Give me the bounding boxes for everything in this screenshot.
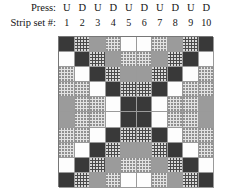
press-label: Press: — [0, 0, 59, 15]
pattern-cell — [183, 158, 199, 173]
pattern-cell — [90, 143, 106, 158]
strip-set-number: 3 — [90, 15, 106, 30]
pattern-cell — [183, 37, 199, 52]
pattern-cell — [183, 173, 199, 188]
pattern-cell — [59, 128, 75, 143]
pattern-cell — [106, 67, 122, 82]
pattern-cell — [59, 37, 75, 52]
pattern-cell — [59, 158, 75, 173]
pattern-cell — [106, 37, 122, 52]
pattern-cell — [199, 52, 215, 67]
pattern-cell — [168, 67, 184, 82]
pattern-cell — [75, 67, 91, 82]
quilt-pattern-grid — [58, 36, 213, 187]
strip-set-number: 5 — [121, 15, 137, 30]
pattern-cell — [90, 67, 106, 82]
strip-set-number: 2 — [75, 15, 91, 30]
pattern-cell — [199, 97, 215, 112]
pattern-cell — [152, 67, 168, 82]
pattern-cell — [121, 97, 137, 112]
pattern-cell — [168, 143, 184, 158]
pattern-cell — [137, 67, 153, 82]
press-value: U — [59, 0, 75, 15]
strip-set-number: 6 — [137, 15, 153, 30]
pattern-cell — [121, 158, 137, 173]
pattern-cell — [59, 52, 75, 67]
pattern-cell — [75, 143, 91, 158]
pattern-cell — [75, 173, 91, 188]
chart-header: Press: U D U D U D U D U D Strip set #: … — [0, 0, 226, 30]
strip-pattern-figure: Press: U D U D U D U D U D Strip set #: … — [0, 0, 226, 195]
press-value: U — [152, 0, 168, 15]
pattern-cell — [75, 158, 91, 173]
press-row: Press: U D U D U D U D U D — [0, 0, 226, 15]
pattern-cell — [137, 128, 153, 143]
pattern-cell — [183, 128, 199, 143]
pattern-cell — [90, 158, 106, 173]
pattern-cell — [90, 97, 106, 112]
pattern-cell — [90, 112, 106, 127]
pattern-cell — [183, 52, 199, 67]
pattern-cell — [59, 173, 75, 188]
pattern-cell — [152, 128, 168, 143]
pattern-cell — [137, 173, 153, 188]
pattern-cell — [199, 112, 215, 127]
strip-set-number: 8 — [168, 15, 184, 30]
pattern-cell — [183, 97, 199, 112]
pattern-cell — [199, 158, 215, 173]
pattern-cell — [121, 82, 137, 97]
pattern-cell — [199, 37, 215, 52]
pattern-cell — [106, 97, 122, 112]
pattern-cell — [90, 173, 106, 188]
pattern-cell — [121, 128, 137, 143]
pattern-cell — [183, 67, 199, 82]
strip-set-number: 7 — [152, 15, 168, 30]
pattern-cell — [183, 82, 199, 97]
pattern-cell — [152, 52, 168, 67]
pattern-cell — [137, 82, 153, 97]
pattern-cell — [90, 128, 106, 143]
pattern-cell — [59, 82, 75, 97]
pattern-cell — [75, 112, 91, 127]
pattern-cell — [199, 173, 215, 188]
pattern-cell — [152, 143, 168, 158]
pattern-cell — [106, 82, 122, 97]
press-value: D — [75, 0, 91, 15]
pattern-cell — [90, 82, 106, 97]
press-value: U — [183, 0, 199, 15]
strip-set-number: 4 — [106, 15, 122, 30]
pattern-cell — [168, 37, 184, 52]
strip-set-number: 1 — [59, 15, 75, 30]
pattern-cell — [121, 52, 137, 67]
pattern-cell — [199, 82, 215, 97]
press-value: D — [106, 0, 122, 15]
pattern-cell — [90, 37, 106, 52]
strip-set-number: 10 — [199, 15, 215, 30]
pattern-cell — [59, 97, 75, 112]
pattern-cell — [152, 158, 168, 173]
pattern-cell — [90, 52, 106, 67]
pattern-cell — [152, 37, 168, 52]
press-value: D — [137, 0, 153, 15]
pattern-cell — [75, 128, 91, 143]
pattern-cell — [168, 82, 184, 97]
press-value: U — [90, 0, 106, 15]
strip-set-row: Strip set #: 1 2 3 4 5 6 7 8 9 10 — [0, 15, 226, 30]
strip-set-number: 9 — [183, 15, 199, 30]
pattern-cell — [59, 67, 75, 82]
pattern-cell — [75, 82, 91, 97]
pattern-cell — [106, 158, 122, 173]
pattern-cell — [168, 173, 184, 188]
pattern-cell — [106, 52, 122, 67]
pattern-cell — [137, 52, 153, 67]
pattern-cell — [137, 37, 153, 52]
pattern-cell — [152, 97, 168, 112]
pattern-cell — [199, 67, 215, 82]
pattern-cell — [106, 112, 122, 127]
pattern-cell — [59, 143, 75, 158]
pattern-cell — [137, 97, 153, 112]
pattern-cell — [121, 112, 137, 127]
pattern-cell — [168, 52, 184, 67]
strip-set-label: Strip set #: — [0, 15, 59, 30]
strip-set-numbers: 1 2 3 4 5 6 7 8 9 10 — [59, 15, 214, 30]
